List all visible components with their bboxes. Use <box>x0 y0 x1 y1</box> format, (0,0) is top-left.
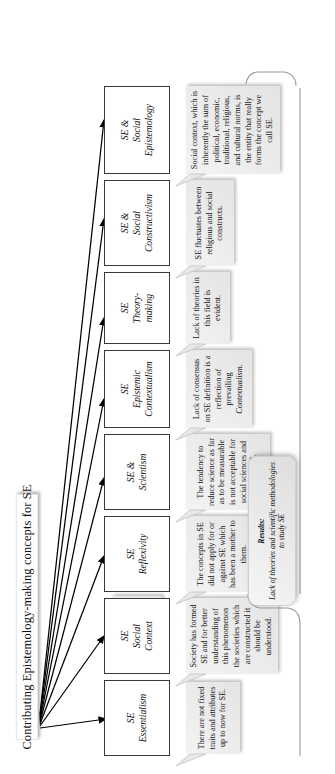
summary-brace <box>0 0 335 774</box>
results-text: Lack of theories and scientific methodol… <box>268 462 287 600</box>
results-label: Results: <box>257 518 266 543</box>
diagram-canvas: Contributing Epistemology-making concept… <box>0 0 335 774</box>
results-box: Results: Lack of theories and scientific… <box>248 456 296 606</box>
